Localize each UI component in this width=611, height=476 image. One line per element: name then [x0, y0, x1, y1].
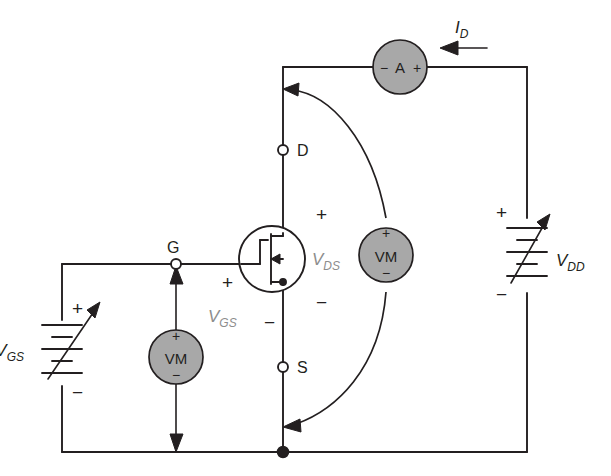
vds-voltmeter-plus: + [382, 225, 390, 241]
drain-terminal-node [278, 145, 288, 155]
vgs-source-plus: + [72, 298, 83, 319]
vgs-device-label: VGS [208, 307, 237, 330]
gate-terminal-node [171, 259, 181, 269]
vds-voltmeter-label: VM [375, 248, 398, 265]
vgs-device-minus-sign: − [264, 312, 275, 333]
circuit-diagram-figure: − A + ID + VM − + VM − [0, 0, 611, 476]
vgs-device-plus-sign: + [222, 272, 233, 293]
vdd-source-minus: − [496, 284, 507, 305]
circuit-schematic-svg: − A + ID + VM − + VM − [0, 0, 611, 476]
mosfet[interactable] [239, 226, 305, 292]
ammeter-minus-label: − [380, 60, 388, 76]
vdd-source-label: VDD [556, 251, 585, 274]
drain-terminal-label: D [297, 142, 309, 159]
vgs-source-minus: − [72, 382, 83, 403]
vds-plus-sign: + [316, 204, 327, 225]
drain-current-label: ID [455, 18, 469, 41]
ammeter[interactable]: − A + [373, 40, 427, 94]
ammeter-plus-label: + [413, 60, 421, 76]
vds-voltmeter-minus: − [382, 265, 390, 281]
drain-current-arrow [440, 41, 487, 55]
wire-vds-lower-curve [296, 292, 386, 424]
vds-minus-sign: − [316, 292, 327, 313]
arrowhead-vds-lower [283, 419, 301, 432]
arrowhead-vds-upper [283, 83, 299, 96]
ammeter-label: A [395, 59, 405, 76]
vdd-source-plus: + [496, 202, 507, 223]
source-terminal-label: S [297, 359, 308, 376]
vgs-source-symbol[interactable] [42, 302, 100, 379]
vds-label: VDS [312, 250, 340, 273]
gate-source-voltmeter[interactable]: + VM − [149, 328, 203, 384]
vdd-source-symbol[interactable] [507, 214, 550, 283]
source-terminal-node [278, 362, 288, 372]
vgs-source-label: VGS [0, 341, 24, 364]
vgs-voltmeter-plus: + [172, 328, 180, 344]
drain-source-voltmeter[interactable]: + VM − [359, 225, 413, 282]
ground-junction-node [278, 447, 289, 458]
vgs-voltmeter-minus: − [172, 367, 180, 383]
vgs-voltmeter-label: VM [165, 350, 188, 367]
gate-terminal-label: G [167, 239, 179, 256]
